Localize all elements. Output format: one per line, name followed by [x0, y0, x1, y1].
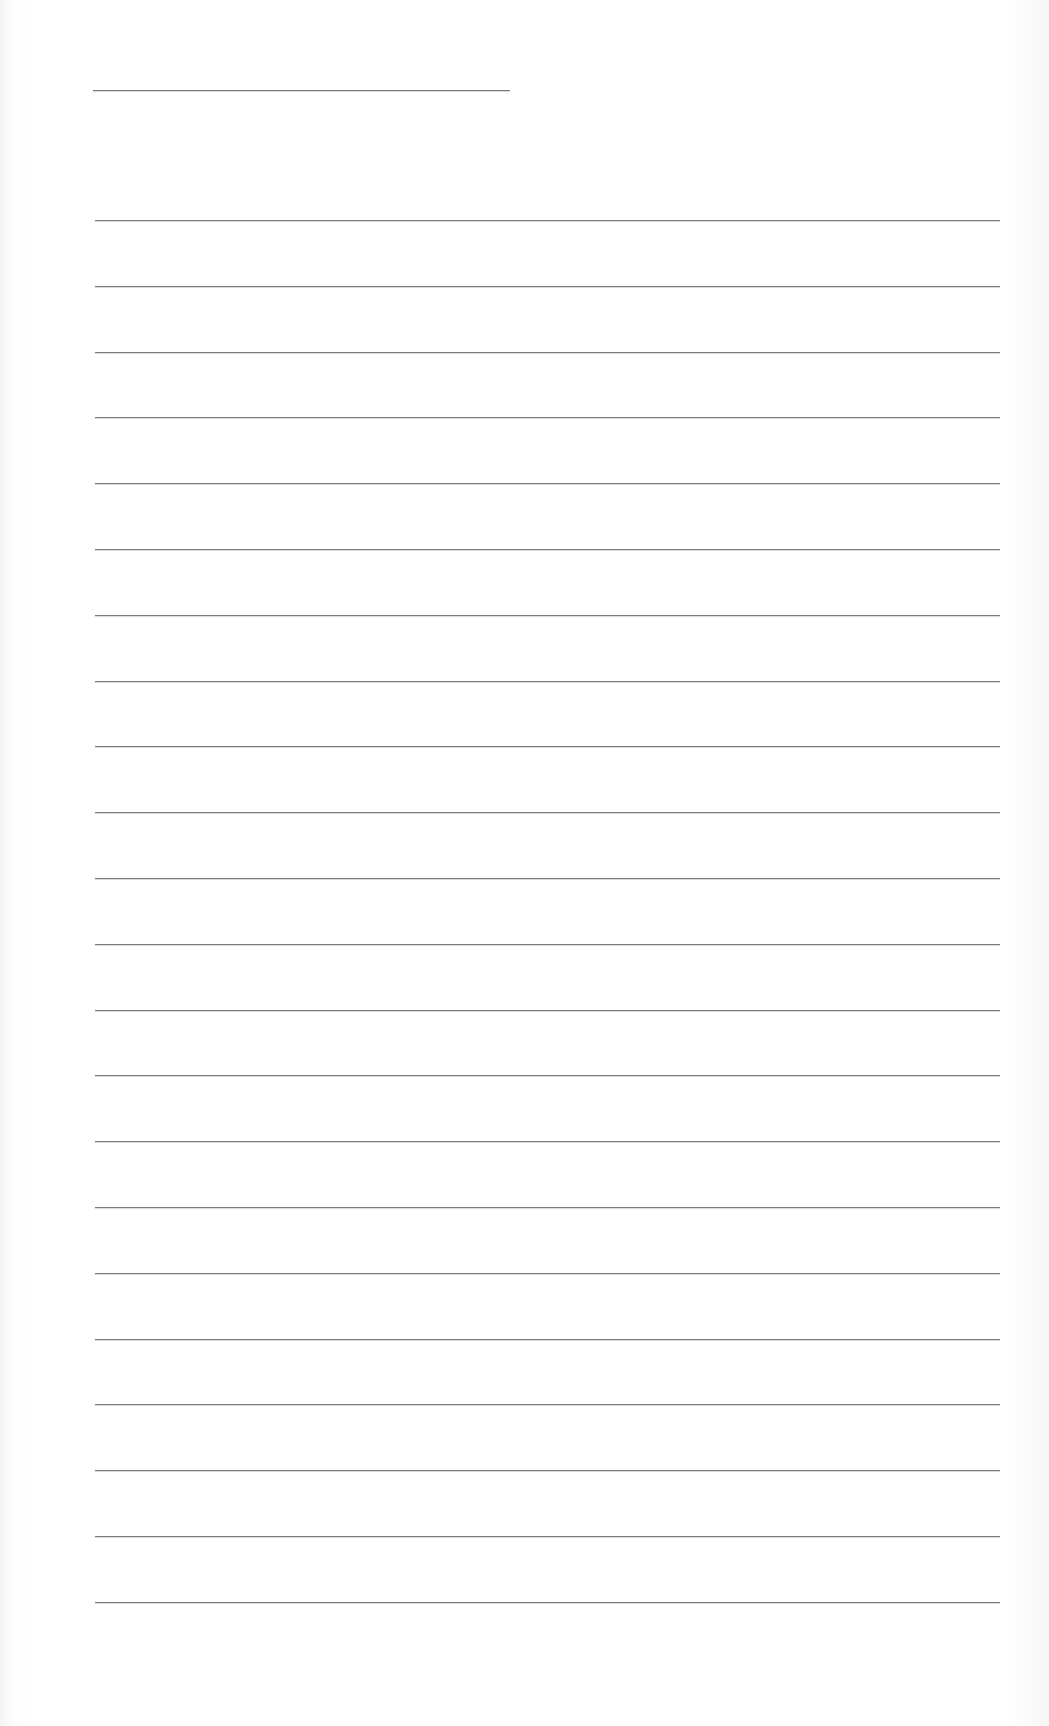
- ruled-line: [95, 352, 1000, 353]
- ruled-line: [95, 1470, 1000, 1471]
- ruled-line: [95, 549, 1000, 550]
- ruled-line: [95, 1141, 1000, 1142]
- ruled-line: [95, 812, 1000, 813]
- ruled-line: [95, 944, 1000, 945]
- ruled-line: [95, 615, 1000, 616]
- ruled-line: [95, 878, 1000, 879]
- ruled-line: [95, 1602, 1000, 1603]
- ruled-line: [95, 1010, 1000, 1011]
- ruled-line: [95, 1075, 1000, 1076]
- ruled-line: [95, 1404, 1000, 1405]
- ruled-line: [95, 483, 1000, 484]
- paper-page: [0, 0, 1049, 1726]
- ruled-line: [95, 286, 1000, 287]
- ruled-line: [95, 1536, 1000, 1537]
- ruled-line: [95, 1273, 1000, 1274]
- ruled-line: [95, 220, 1000, 221]
- ruled-line: [95, 417, 1000, 418]
- ruled-line: [95, 681, 1000, 682]
- ruled-line: [95, 1339, 1000, 1340]
- ruled-line: [95, 746, 1000, 747]
- ruled-line: [95, 1207, 1000, 1208]
- header-blank-line: [93, 90, 510, 91]
